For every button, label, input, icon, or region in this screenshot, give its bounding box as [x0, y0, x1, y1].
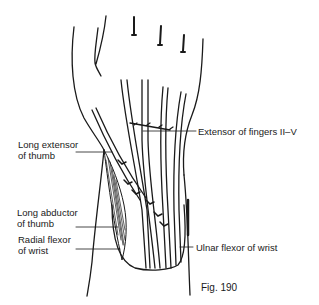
leader-lines	[76, 131, 196, 249]
hand-outline-right	[183, 39, 203, 175]
thumb-outline	[95, 16, 106, 76]
figure-caption: Fig. 190	[201, 282, 237, 293]
label-long-extensor-of-thumb: Long extensor of thumb	[18, 139, 78, 161]
label-radial-flexor-of-wrist: Radial flexor of wrist	[18, 234, 71, 256]
hand-outline-left	[72, 27, 104, 150]
forearm-left	[87, 150, 104, 296]
label-ulnar-flexor-of-wrist: Ulnar flexor of wrist	[196, 242, 277, 253]
label-extensor-of-fingers: Extensor of fingers II–V	[198, 126, 297, 137]
finger-mark-2	[158, 26, 162, 45]
finger-mark-1	[132, 17, 136, 35]
label-long-abductor-of-thumb: Long abductor of thumb	[17, 207, 78, 229]
finger-mark-3	[181, 35, 185, 52]
